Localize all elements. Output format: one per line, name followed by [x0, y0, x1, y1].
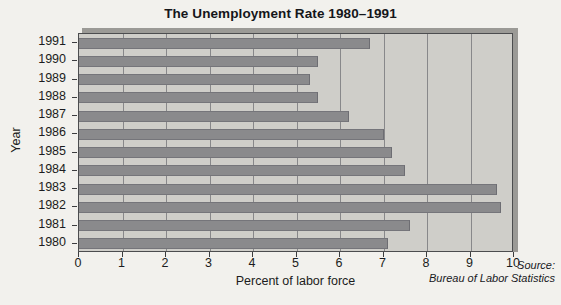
- source-label: Source:: [429, 259, 555, 272]
- bar-row: [79, 238, 513, 249]
- bar-row: [79, 74, 513, 85]
- x-tick-label-7: 7: [368, 256, 398, 270]
- unemployment-bar-chart: The Unemployment Rate 1980–1991 19801981…: [0, 0, 561, 305]
- x-tick-label-6: 6: [324, 256, 354, 270]
- bar-row: [79, 165, 513, 176]
- y-tick-mark: [72, 152, 77, 153]
- x-tick-mark: [513, 252, 514, 257]
- y-tick-mark: [72, 225, 77, 226]
- bar-1987: [79, 111, 349, 122]
- x-tick-label-4: 4: [237, 256, 267, 270]
- y-tick-label-1991: 1991: [0, 35, 66, 47]
- y-tick-label-1982: 1982: [0, 199, 66, 211]
- y-tick-mark: [72, 97, 77, 98]
- y-tick-mark: [72, 79, 77, 80]
- x-tick-mark: [122, 252, 123, 257]
- x-tick-mark: [470, 252, 471, 257]
- x-tick-label-1: 1: [107, 256, 137, 270]
- bar-row: [79, 111, 513, 122]
- y-tick-mark: [72, 60, 77, 61]
- bar-row: [79, 56, 513, 67]
- y-tick-label-1988: 1988: [0, 90, 66, 102]
- bar-1990: [79, 56, 318, 67]
- y-tick-mark: [72, 206, 77, 207]
- bar-1981: [79, 220, 410, 231]
- x-tick-mark: [296, 252, 297, 257]
- y-tick-mark: [72, 133, 77, 134]
- bar-row: [79, 202, 513, 213]
- bar-1983: [79, 184, 497, 195]
- y-tick-mark: [72, 188, 77, 189]
- bar-1989: [79, 74, 310, 85]
- y-tick-label-1989: 1989: [0, 72, 66, 84]
- x-tick-label-0: 0: [63, 256, 93, 270]
- x-tick-mark: [209, 252, 210, 257]
- chart-title: The Unemployment Rate 1980–1991: [0, 6, 561, 21]
- bar-row: [79, 147, 513, 158]
- bar-1980: [79, 238, 388, 249]
- x-tick-mark: [78, 252, 79, 257]
- plot-area: [78, 33, 513, 252]
- x-tick-label-2: 2: [150, 256, 180, 270]
- y-tick-label-1983: 1983: [0, 181, 66, 193]
- bar-row: [79, 129, 513, 140]
- bar-row: [79, 184, 513, 195]
- x-tick-mark: [383, 252, 384, 257]
- bar-1982: [79, 202, 501, 213]
- x-tick-mark: [165, 252, 166, 257]
- y-tick-label-1990: 1990: [0, 53, 66, 65]
- x-tick-mark: [339, 252, 340, 257]
- y-tick-mark: [72, 42, 77, 43]
- plot-shadow-right: [513, 28, 518, 252]
- bar-row: [79, 220, 513, 231]
- source-organization: Bureau of Labor Statistics: [429, 272, 555, 285]
- x-tick-mark: [252, 252, 253, 257]
- bar-1988: [79, 92, 318, 103]
- bar-row: [79, 92, 513, 103]
- bar-1991: [79, 38, 370, 49]
- y-tick-label-1981: 1981: [0, 218, 66, 230]
- x-tick-label-3: 3: [194, 256, 224, 270]
- x-tick-label-5: 5: [281, 256, 311, 270]
- y-tick-label-1980: 1980: [0, 236, 66, 248]
- bar-1984: [79, 165, 405, 176]
- y-tick-mark: [72, 243, 77, 244]
- y-tick-mark: [72, 170, 77, 171]
- y-tick-mark: [72, 115, 77, 116]
- bar-1986: [79, 129, 384, 140]
- y-axis-title: Year: [9, 110, 23, 170]
- bar-1985: [79, 147, 392, 158]
- x-tick-mark: [426, 252, 427, 257]
- source-note: Source: Bureau of Labor Statistics: [429, 259, 555, 285]
- bar-row: [79, 38, 513, 49]
